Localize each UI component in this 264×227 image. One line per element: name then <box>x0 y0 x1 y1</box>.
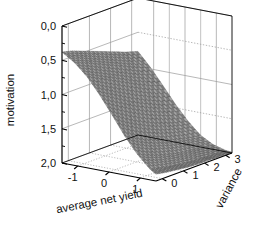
z-tick-label: 2,0 <box>41 157 56 169</box>
surface-plot-canvas: 0,00,51,01,52,0-1010123 motivationaverag… <box>0 0 264 227</box>
z-tick-label: 0,5 <box>41 54 56 66</box>
y-tick-label: 3 <box>235 153 241 165</box>
z-axis-title: motivation <box>4 74 16 126</box>
x-tick-label: 0 <box>101 177 107 189</box>
x-tick-label: -1 <box>68 171 78 183</box>
x-axis-title: average net yield <box>55 187 143 215</box>
surface-plot-figure: 0,00,51,01,52,0-1010123 motivationaverag… <box>0 0 264 227</box>
y-tick-label: 2 <box>213 161 219 173</box>
z-tick-label: 1,5 <box>41 123 56 135</box>
y-tick-label: 0 <box>171 177 177 189</box>
z-tick-label: 1,0 <box>41 89 56 101</box>
y-tick-label: 1 <box>192 169 198 181</box>
z-tick-label: 0,0 <box>41 20 56 32</box>
